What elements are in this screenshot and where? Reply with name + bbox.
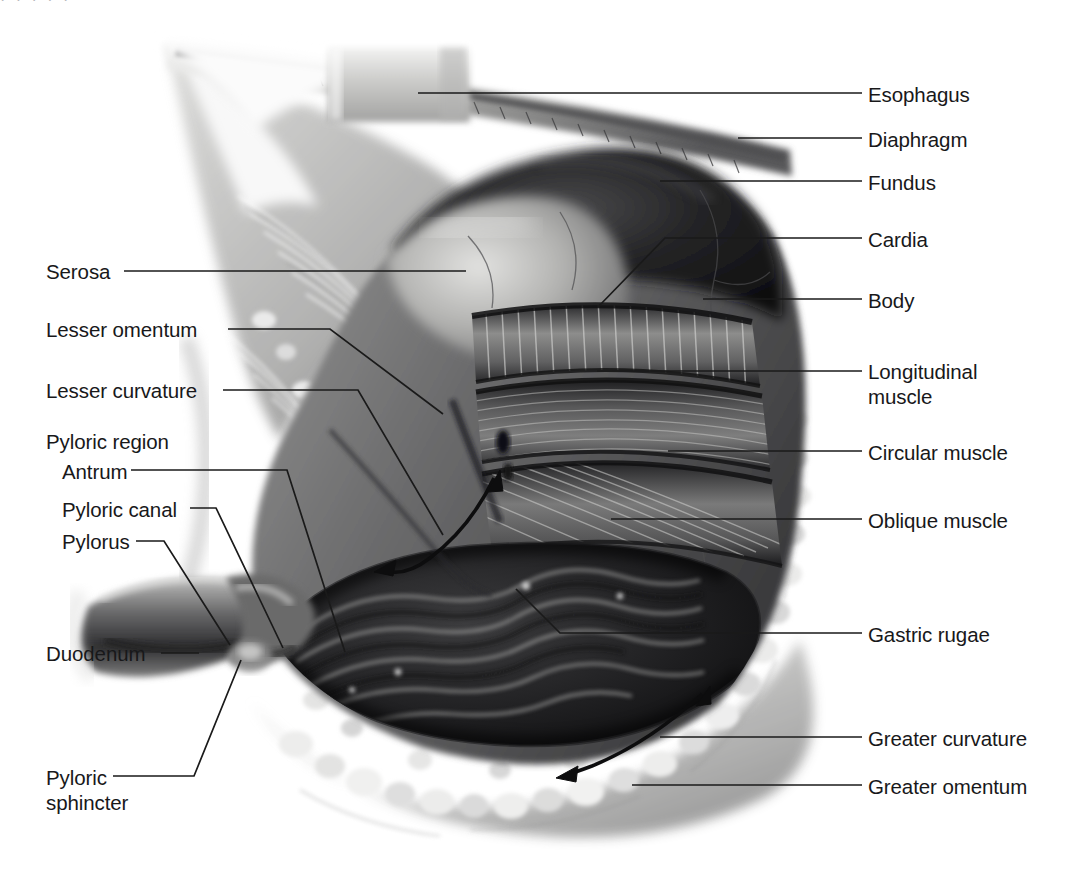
label-antrum[interactable]: Antrum xyxy=(62,459,127,484)
label-diaphragm[interactable]: Diaphragm xyxy=(868,127,967,152)
label-circular-muscle[interactable]: Circular muscle xyxy=(868,440,1008,465)
esophagus-tube xyxy=(328,48,470,122)
label-gastric-rugae[interactable]: Gastric rugae xyxy=(868,622,990,647)
stomach-anatomy-figure: · · · · · xyxy=(0,0,1081,874)
label-pyloric-region: Pyloric region xyxy=(46,429,169,454)
label-fundus[interactable]: Fundus xyxy=(868,170,936,195)
label-longitudinal-muscle[interactable]: Longitudinal muscle xyxy=(868,359,977,409)
label-lesser-curvature[interactable]: Lesser curvature xyxy=(46,378,197,403)
label-pyloric-canal[interactable]: Pyloric canal xyxy=(62,497,177,522)
label-serosa[interactable]: Serosa xyxy=(46,259,110,284)
label-pylorus[interactable]: Pylorus xyxy=(62,529,130,554)
label-body[interactable]: Body xyxy=(868,288,914,313)
label-cardia[interactable]: Cardia xyxy=(868,227,928,252)
label-duodenum[interactable]: Duodenum xyxy=(46,641,146,666)
label-pyloric-sphincter[interactable]: Pyloric sphincter xyxy=(46,765,128,815)
label-esophagus[interactable]: Esophagus xyxy=(868,82,970,107)
label-greater-curvature[interactable]: Greater curvature xyxy=(868,726,1027,751)
label-greater-omentum[interactable]: Greater omentum xyxy=(868,774,1027,799)
label-oblique-muscle[interactable]: Oblique muscle xyxy=(868,508,1008,533)
label-lesser-omentum[interactable]: Lesser omentum xyxy=(46,317,197,342)
